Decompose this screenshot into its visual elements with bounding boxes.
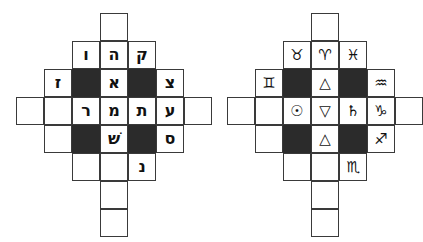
hebrew-letter-cross: והקזאצרמתעשׁסנ: [0, 0, 211, 242]
net-cell-row1-col3: ♓: [339, 41, 367, 69]
sagittarius-glyph: ♐: [374, 131, 387, 146]
net-cell-row4-col0: [255, 125, 283, 153]
letter-glyph: נ: [138, 159, 145, 175]
net-cell-row2-col0: ז: [44, 69, 72, 97]
pisces-glyph: ♓: [346, 47, 359, 62]
net-cell-row1-col1: ♉: [283, 41, 311, 69]
letter-glyph: ק: [136, 47, 148, 63]
net-cell-row3-colm1: [16, 97, 44, 125]
net-cell-row1-col1: ו: [72, 41, 100, 69]
net-cell-row2-col0: ♊: [255, 69, 283, 97]
letter-glyph: מ: [108, 103, 120, 119]
net-cell-row5-col3: ♏: [339, 153, 367, 181]
sun-glyph: ☉: [290, 103, 303, 118]
net-cell-row7-col2: [100, 209, 128, 237]
capricorn-glyph: ♑: [374, 103, 387, 118]
net-cell-row3-col1: ר: [72, 97, 100, 125]
net-cell-row5-col1: [72, 153, 100, 181]
letter-glyph: ז: [55, 75, 61, 91]
letter-glyph: ר: [81, 103, 91, 119]
net-cell-row3-colm1: [227, 97, 255, 125]
letter-glyph: צ: [165, 75, 175, 91]
net-cell-row4-col0: [44, 125, 72, 153]
gemini-glyph: ♊: [262, 75, 275, 90]
net-cell-row6-col2: [100, 181, 128, 209]
net-cell-row3-col2: ▽: [311, 97, 339, 125]
net-cell-row2-col1: [283, 69, 311, 97]
net-cell-row3-col5: [184, 97, 212, 125]
scorpio-glyph: ♏: [346, 159, 359, 174]
net-cell-row3-col3: ♄: [339, 97, 367, 125]
net-cell-row3-col0: [255, 97, 283, 125]
letter-glyph: ו: [83, 47, 89, 63]
aries-glyph: ♈: [318, 47, 331, 62]
net-cell-row3-col1: ☉: [283, 97, 311, 125]
net-cell-row4-col1: [72, 125, 100, 153]
net-cell-row3-col0: [44, 97, 72, 125]
astrological-symbol-cross: ♉♈♓♊△♒☉▽♄♑△♐♏: [211, 0, 422, 242]
net-cell-row3-col3: ת: [128, 97, 156, 125]
water-triangle-glyph: ▽: [319, 103, 331, 118]
net-cell-top-outer: [100, 13, 128, 41]
aquarius-glyph: ♒: [374, 75, 387, 90]
net-cell-row3-col4: ♑: [367, 97, 395, 125]
net-cell-row4-col3: [128, 125, 156, 153]
net-cell-row2-col4: ♒: [367, 69, 395, 97]
net-cell-row4-col4: ♐: [367, 125, 395, 153]
net-cell-row7-col2: [311, 209, 339, 237]
net-cell-row1-col2: ה: [100, 41, 128, 69]
net-cell-row2-col2: א: [100, 69, 128, 97]
net-cell-row2-col2: △: [311, 69, 339, 97]
net-cell-row4-col3: [339, 125, 367, 153]
net-cell-row3-col4: ע: [156, 97, 184, 125]
net-cell-row4-col2: △: [311, 125, 339, 153]
letter-glyph: ע: [165, 103, 176, 119]
net-cell-row6-col2: [311, 181, 339, 209]
letter-glyph: א: [108, 75, 120, 91]
net-cell-top-outer: [311, 13, 339, 41]
net-cell-row2-col4: צ: [156, 69, 184, 97]
net-cell-row1-col2: ♈: [311, 41, 339, 69]
net-cell-row5-col1: [283, 153, 311, 181]
net-cell-row5-col2: [100, 153, 128, 181]
taurus-glyph: ♉: [290, 47, 303, 62]
net-cell-row4-col4: ס: [156, 125, 184, 153]
net-cell-row2-col3: [128, 69, 156, 97]
net-cell-row2-col3: [339, 69, 367, 97]
net-cell-row3-col2: מ: [100, 97, 128, 125]
net-cell-row5-col3: נ: [128, 153, 156, 181]
air-triangle-glyph: △: [319, 131, 331, 146]
letter-glyph: שׁ: [108, 131, 120, 147]
saturn-glyph: ♄: [346, 103, 359, 118]
net-cell-row1-col3: ק: [128, 41, 156, 69]
net-cell-row2-col1: [72, 69, 100, 97]
fire-triangle-glyph: △: [319, 75, 331, 90]
letter-glyph: ת: [137, 103, 148, 119]
net-cell-row5-col2: [311, 153, 339, 181]
net-cell-row4-col2: שׁ: [100, 125, 128, 153]
letter-glyph: ס: [165, 131, 176, 147]
net-cell-row3-col5: [395, 97, 423, 125]
letter-glyph: ה: [109, 47, 120, 63]
net-cell-row4-col1: [283, 125, 311, 153]
